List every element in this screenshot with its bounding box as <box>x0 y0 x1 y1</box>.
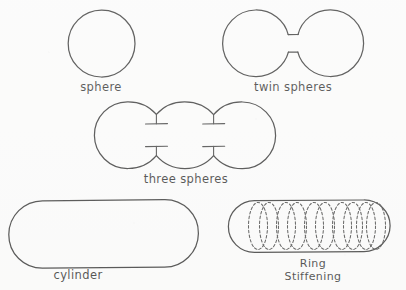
label-ring-stiffening-line1: Ring <box>300 257 326 270</box>
figure-three-spheres <box>94 102 275 169</box>
ring-stiffener-junction-right <box>203 115 225 155</box>
three-spheres-circle-right <box>214 102 276 169</box>
twin-sphere-left-outline <box>223 10 289 77</box>
stiffening-ring-2 <box>277 203 307 250</box>
hull-configurations-diagram: sphere twin spheres <box>0 0 406 290</box>
three-spheres-circle-middle-bottom <box>156 156 213 169</box>
stiffening-ring-3 <box>305 203 335 250</box>
stiffening-ring-1 <box>249 203 279 250</box>
label-sphere: sphere <box>80 80 122 94</box>
sketch-canvas: sphere twin spheres <box>0 0 406 290</box>
figure-ring-stiffening <box>228 200 390 252</box>
label-cylinder: cylinder <box>53 268 102 282</box>
label-ring-stiffening-line2: Stiffening <box>285 270 342 283</box>
twin-sphere-right-outline <box>298 10 364 77</box>
three-spheres-circle-middle-top <box>156 102 213 115</box>
figure-sphere <box>68 10 135 77</box>
figure-twin-spheres <box>223 10 364 77</box>
sphere-outline <box>68 10 135 77</box>
cylinder-outline <box>9 200 199 269</box>
stiffening-ring-5 <box>357 203 386 250</box>
figure-cylinder <box>9 200 199 269</box>
ring-stiffener-junction-left <box>146 115 168 155</box>
stiffening-rings-group <box>249 203 386 250</box>
label-twin-spheres: twin spheres <box>254 80 332 94</box>
stiffening-ring-4 <box>333 203 363 250</box>
label-three-spheres: three spheres <box>144 172 228 186</box>
three-spheres-circle-left <box>94 102 156 169</box>
